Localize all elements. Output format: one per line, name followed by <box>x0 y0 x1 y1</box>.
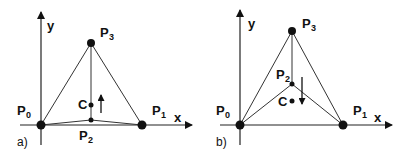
label-p1: P 1 <box>353 103 367 120</box>
svg-text:2: 2 <box>285 74 290 84</box>
label-p0: P 0 <box>216 103 230 120</box>
svg-text:0: 0 <box>26 110 31 120</box>
svg-text:P: P <box>302 16 311 31</box>
triangle-edges <box>240 31 343 125</box>
point-p0 <box>236 121 245 130</box>
point-p0 <box>37 121 46 130</box>
y-axis-label: y <box>248 16 256 31</box>
point-c <box>290 99 295 104</box>
point-c <box>89 103 94 108</box>
label-p0: P 0 <box>17 103 31 120</box>
svg-text:P: P <box>79 128 88 143</box>
panel-a: y x P 3 P 0 P 1 P 2 C a) <box>17 12 192 149</box>
svg-text:3: 3 <box>109 32 114 42</box>
y-axis-label: y <box>47 18 55 33</box>
label-p2: P 2 <box>276 67 290 84</box>
svg-text:1: 1 <box>161 110 166 120</box>
point-p1 <box>138 121 147 130</box>
point-p2 <box>290 82 295 87</box>
svg-text:1: 1 <box>362 110 367 120</box>
label-p3: P 3 <box>302 16 316 33</box>
x-axis-label: x <box>374 110 382 125</box>
svg-text:P: P <box>216 103 225 118</box>
point-p2 <box>89 118 94 123</box>
label-c: C <box>278 94 288 109</box>
triangle-edges <box>41 43 142 125</box>
svg-text:P: P <box>152 103 161 118</box>
label-p3: P 3 <box>100 25 114 42</box>
point-p1 <box>339 121 348 130</box>
panel-caption-a: a) <box>17 135 28 149</box>
panel-b: y x P 3 P 2 P 0 P 1 C b) <box>216 10 392 149</box>
label-p2: P 2 <box>79 128 93 145</box>
svg-text:P: P <box>100 25 109 40</box>
point-p3 <box>87 39 95 47</box>
diagram-canvas: y x P 3 P 0 P 1 P 2 C a) <box>0 0 413 155</box>
label-c: C <box>78 97 88 112</box>
svg-text:P: P <box>17 103 26 118</box>
svg-text:0: 0 <box>225 110 230 120</box>
svg-text:2: 2 <box>88 135 93 145</box>
svg-text:P: P <box>353 103 362 118</box>
svg-text:P: P <box>276 67 285 82</box>
point-p3 <box>288 27 296 35</box>
x-axis-label: x <box>174 110 182 125</box>
label-p1: P 1 <box>152 103 166 120</box>
panel-caption-b: b) <box>216 135 227 149</box>
svg-text:3: 3 <box>311 23 316 33</box>
